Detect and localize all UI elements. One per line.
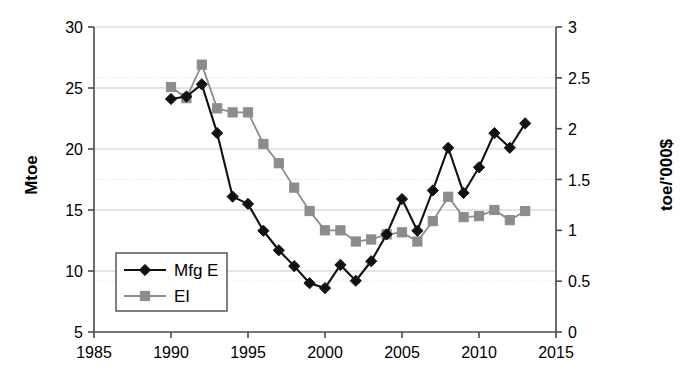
y-axis-right-tick-label: 0.5 (568, 273, 590, 290)
y-axis-right-tick-label: 1 (568, 222, 577, 239)
data-point-marker-square (474, 212, 483, 221)
data-point-marker-diamond (473, 162, 484, 173)
data-point-marker-square (521, 206, 530, 215)
data-point-marker-diamond (319, 282, 330, 293)
x-axis-tick-label: 2005 (384, 344, 420, 361)
x-axis-tick-label: 2010 (461, 344, 497, 361)
data-point-marker-square (243, 108, 252, 117)
y-axis-right-tick-label: 0 (568, 324, 577, 341)
legend-label: EI (174, 287, 190, 306)
y-axis-left-tick-label: 5 (74, 324, 83, 341)
x-axis-tick-label: 1995 (230, 344, 266, 361)
data-point-marker-square (428, 217, 437, 226)
data-point-marker-square (367, 235, 376, 244)
data-point-marker-square (320, 226, 329, 235)
data-point-marker-square (259, 139, 268, 148)
y-axis-right-tick-label: 2 (568, 121, 577, 138)
data-point-marker-square (444, 192, 453, 201)
data-point-marker-square (351, 237, 360, 246)
data-point-marker-diamond (458, 187, 469, 198)
data-point-marker-square (490, 205, 499, 214)
data-point-marker-square (397, 228, 406, 237)
y-axis-left-tick-label: 20 (65, 141, 83, 158)
data-point-marker-square (140, 291, 149, 300)
data-point-marker-square (274, 159, 283, 168)
data-point-marker-diamond (242, 198, 253, 209)
chart-container: Mtoe toe/'000$ 5101520253000.511.522.531… (0, 0, 690, 385)
chart-legend: Mfg EEI (116, 253, 227, 311)
x-axis-tick-label: 2000 (307, 344, 343, 361)
data-point-marker-diamond (412, 225, 423, 236)
data-point-marker-diamond (520, 118, 531, 129)
data-point-marker-square (228, 108, 237, 117)
data-point-marker-diamond (396, 193, 407, 204)
x-axis-tick-label: 1985 (76, 344, 112, 361)
data-point-marker-square (166, 82, 175, 91)
data-point-marker-diamond (165, 93, 176, 104)
data-point-marker-square (505, 216, 514, 225)
x-axis-tick-label: 1990 (153, 344, 189, 361)
y-axis-left-tick-label: 10 (65, 263, 83, 280)
data-point-marker-square (413, 237, 422, 246)
line-chart-plot: 5101520253000.511.522.531985199019952000… (0, 0, 690, 385)
data-point-marker-square (290, 183, 299, 192)
data-point-marker-diamond (227, 191, 238, 202)
gridlines (94, 27, 556, 281)
data-point-marker-square (305, 206, 314, 215)
x-axis-tick-label: 2015 (538, 344, 574, 361)
data-point-marker-square (213, 104, 222, 113)
data-point-marker-square (197, 60, 206, 69)
data-point-marker-diamond (443, 142, 454, 153)
y-axis-left-tick-label: 25 (65, 80, 83, 97)
y-axis-left-tick-label: 30 (65, 19, 83, 36)
series-line (171, 65, 525, 242)
data-point-marker-diamond (427, 185, 438, 196)
data-point-marker-diamond (212, 128, 223, 139)
legend-label: Mfg E (174, 261, 218, 280)
y-axis-left-tick-label: 15 (65, 202, 83, 219)
y-axis-right-tick-label: 3 (568, 19, 577, 36)
data-point-marker-square (459, 213, 468, 222)
y-axis-right-tick-label: 1.5 (568, 172, 590, 189)
y-axis-right-tick-label: 2.5 (568, 70, 590, 87)
data-point-marker-square (336, 226, 345, 235)
